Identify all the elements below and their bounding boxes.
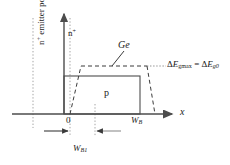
ge-leader-line	[112, 51, 124, 66]
base-doping-rect	[64, 76, 140, 114]
label-nplus-emitter: n+	[68, 28, 76, 38]
label-emitter-poly: n+ emitter poly	[36, 0, 46, 45]
label-ge: Ge	[118, 40, 130, 50]
label-x-axis: x	[180, 107, 184, 117]
ge-profile-left-slope	[70, 66, 81, 114]
label-wb1: WB1	[73, 144, 87, 153]
label-delta-eg-max: ΔEgmax = ΔEg0	[167, 60, 219, 69]
label-wb: WB	[131, 116, 142, 125]
label-origin: 0	[66, 116, 71, 125]
ge-profile-figure: n+ emitter poly n+ Ge ΔEgmax = ΔEg0 p 0 …	[0, 0, 230, 165]
figure-canvas	[0, 0, 230, 165]
ge-profile-right-slope	[147, 66, 155, 114]
label-p-region: p	[104, 88, 109, 98]
